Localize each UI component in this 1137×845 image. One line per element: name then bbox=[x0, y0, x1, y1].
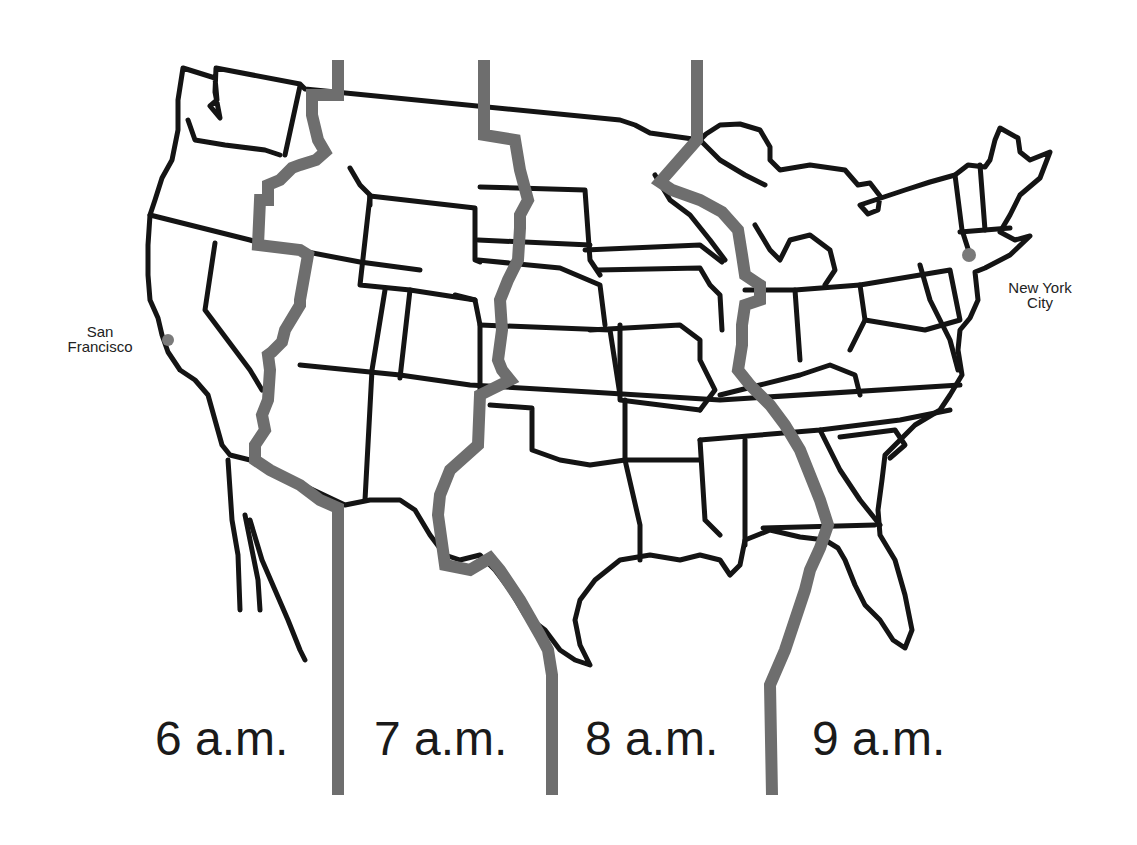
zone-label-eastern: 9 a.m. bbox=[812, 715, 945, 763]
city-label-san-francisco: San Francisco bbox=[45, 324, 155, 354]
us-outline bbox=[148, 68, 1050, 665]
city-label-line: San bbox=[45, 324, 155, 339]
zone-label-mountain: 7 a.m. bbox=[374, 715, 507, 763]
city-label-line: New York bbox=[985, 280, 1095, 295]
central-eastern-boundary bbox=[660, 60, 828, 795]
state-outlines bbox=[148, 68, 1050, 665]
new-york-city-marker bbox=[962, 248, 976, 262]
mountain-central-boundary bbox=[438, 60, 552, 795]
city-label-line: Francisco bbox=[45, 339, 155, 354]
zone-label-pacific: 6 a.m. bbox=[155, 715, 288, 763]
city-label-line: City bbox=[985, 295, 1095, 310]
timezone-boundaries bbox=[255, 60, 828, 795]
pacific-mountain-boundary bbox=[255, 60, 338, 795]
san-francisco-marker bbox=[162, 334, 174, 346]
city-label-new-york-city: New York City bbox=[985, 280, 1095, 310]
zone-label-central: 8 a.m. bbox=[585, 715, 718, 763]
